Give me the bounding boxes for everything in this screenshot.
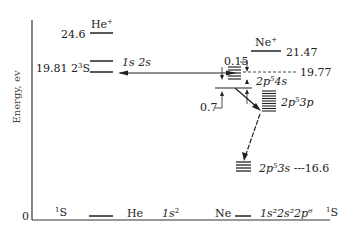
ne-ground-config: 1s²2s²2p⁶	[260, 208, 313, 219]
ne-3p-sup: 5	[295, 96, 299, 104]
ne-4s-a: 2p	[256, 75, 270, 88]
ne-4s-stack	[228, 67, 241, 79]
ne-ion-label: Ne+	[255, 37, 277, 48]
energy-level-diagram	[0, 0, 350, 233]
he-ion-label: He+	[91, 19, 113, 30]
ne-3p-b: 3p	[300, 96, 314, 109]
he-ground-config: 1s2	[162, 208, 179, 219]
ne-ground-atom: Ne	[215, 208, 231, 219]
ne-ion-text: Ne	[255, 36, 271, 49]
arrow-left-head	[118, 71, 128, 76]
ne-gap-015: 0.15	[224, 56, 249, 67]
ne-ground-term-text: S	[330, 206, 338, 219]
he-ground-term: 1S	[55, 207, 67, 218]
ne-3s-stack	[236, 162, 251, 171]
ne-3p-stack	[262, 91, 276, 111]
ne-ground-term: 1S	[326, 207, 338, 218]
he-ion-energy: 24.6	[61, 29, 86, 40]
he-term-sup: 3	[78, 62, 82, 70]
he-term-prefix: 2	[71, 62, 78, 75]
ne-3s-dashes: ---	[290, 162, 305, 175]
ne-3s-b: 3s	[278, 162, 291, 175]
he-metastable-config: 1s 2s	[122, 57, 151, 68]
ne-3p-a: 2p	[281, 96, 295, 109]
ne-4s-sup: 5	[270, 75, 274, 83]
ne-3s-config: 2p53s ---16.6	[259, 163, 329, 174]
ne-4s-energy: 19.77	[300, 67, 332, 78]
ne-4s-config: 2p54s	[256, 76, 287, 87]
ne-3p-config: 2p53p	[281, 97, 314, 108]
decay-arrow	[245, 114, 260, 157]
ne-3s-sup: 5	[273, 162, 277, 170]
he-metastable-term: 23S	[71, 63, 90, 74]
he-ground-term-text: S	[59, 206, 67, 219]
he-ground-config-sup: 2	[175, 207, 179, 215]
ne-4s-b: 4s	[275, 75, 288, 88]
he-ground-term-sup: 1	[55, 206, 59, 214]
ne-3s-a: 2p	[259, 162, 273, 175]
ne-gap-07: 0.7	[200, 102, 218, 113]
y-axis-label: Energy, ev	[12, 62, 22, 132]
he-ground-atom: He	[127, 208, 143, 219]
he-ion-text: He	[91, 18, 107, 31]
ne-ion-energy: 21.47	[286, 47, 318, 58]
he-term-suffix: S	[82, 62, 90, 75]
he-ion-sup: +	[107, 18, 113, 26]
he-ground-config-text: 1s	[162, 207, 175, 220]
he-metastable-energy: 19.81	[36, 63, 68, 74]
ne-ground-term-sup: 1	[326, 206, 330, 214]
ne-3s-energy: 16.6	[305, 162, 330, 175]
ne-ion-sup: +	[271, 36, 277, 44]
zero-tick-label: 0	[22, 211, 29, 222]
